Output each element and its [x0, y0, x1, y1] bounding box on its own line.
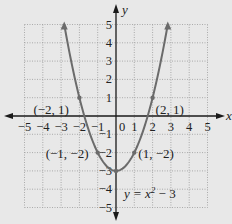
equation-label: y = x2 − 3: [122, 185, 176, 201]
x-tick-label: 4: [186, 120, 193, 134]
curve-arrow-icon: [61, 22, 68, 30]
data-point: [150, 96, 154, 100]
y-tick-label: 4: [106, 36, 113, 50]
origin-label: 0: [119, 120, 125, 134]
x-tick-label: −2: [73, 120, 86, 134]
y-tick-label: −1: [99, 127, 112, 141]
y-axis-down-arrow-icon: [113, 212, 119, 221]
x-tick-label: −4: [36, 120, 50, 134]
y-tick-label: 2: [106, 72, 112, 86]
x-axis-label: x: [225, 108, 232, 123]
x-tick-label: 2: [149, 120, 155, 134]
curve-arrow-icon: [164, 22, 171, 30]
x-tick-label: 1: [131, 120, 137, 134]
point-label: (1, −2): [138, 146, 174, 161]
x-tick-label: 3: [168, 120, 174, 134]
point-label: (−1, −2): [46, 146, 89, 161]
data-point: [96, 150, 100, 154]
y-tick-label: −5: [99, 201, 112, 215]
x-tick-label: −5: [18, 120, 31, 134]
x-tick-label: −3: [54, 120, 67, 134]
point-label: (2, 1): [156, 102, 184, 117]
x-axis-left-arrow-icon: [4, 113, 13, 119]
x-axis-right-arrow-icon: [216, 113, 225, 119]
y-tick-label: −4: [99, 182, 113, 196]
parabola-graph: xy −5−4−3−2−11234554321−1−2−3−4−50 (−2, …: [0, 0, 232, 224]
data-point: [132, 150, 136, 154]
y-axis-up-arrow-icon: [113, 4, 119, 13]
x-tick-label: 5: [204, 120, 210, 134]
point-label: (−2, 1): [33, 102, 69, 117]
data-point: [114, 169, 118, 173]
y-axis-label: y: [120, 2, 128, 17]
y-tick-label: 5: [106, 18, 112, 32]
data-point: [77, 96, 81, 100]
y-tick-label: 3: [106, 54, 112, 68]
y-tick-label: 1: [106, 91, 112, 105]
